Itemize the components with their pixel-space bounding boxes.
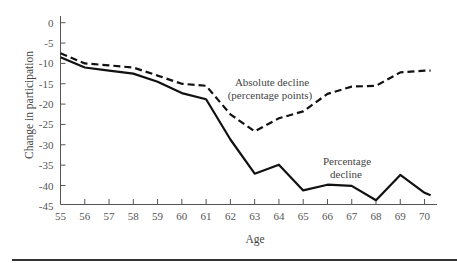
y-tick-label: -20 xyxy=(39,98,54,110)
annotation-absolute-line2: (percentage points) xyxy=(228,89,313,102)
y-tick-label: -5 xyxy=(44,37,54,49)
x-tick-label: 62 xyxy=(225,210,236,222)
x-tick-label: 64 xyxy=(273,210,285,222)
y-tick-label: -35 xyxy=(39,159,54,171)
annotation-percentage-line1: Percentage xyxy=(323,155,371,167)
x-tick-label: 59 xyxy=(152,210,164,222)
y-axis-title: Change in participation xyxy=(23,51,36,159)
y-tick-label: -40 xyxy=(39,180,54,192)
annotation-percentage-line2: decline xyxy=(330,168,362,180)
x-tick-label: 63 xyxy=(249,210,261,222)
bottom-rule xyxy=(12,259,457,261)
x-tick-label: 57 xyxy=(104,210,116,222)
y-tick-label: -10 xyxy=(39,57,54,69)
x-tick-label: 61 xyxy=(201,210,212,222)
x-tick-label: 60 xyxy=(176,210,188,222)
y-tick-label: 0 xyxy=(48,17,54,29)
x-tick-label: 68 xyxy=(371,210,383,222)
x-tick-label: 65 xyxy=(298,210,310,222)
y-tick-label: -45 xyxy=(39,200,54,212)
x-axis-ticks: 55565758596061626364656667686970 xyxy=(55,199,431,222)
annotation-absolute-line1: Absolute decline xyxy=(235,76,309,88)
y-tick-label: -15 xyxy=(39,78,54,90)
x-tick-label: 55 xyxy=(55,210,67,222)
x-tick-label: 70 xyxy=(419,210,431,222)
x-tick-label: 56 xyxy=(79,210,91,222)
x-tick-label: 58 xyxy=(128,210,140,222)
line-chart: 0-5-10-15-20-25-30-35-40-45 555657585960… xyxy=(0,0,457,263)
y-axis-ticks: 0-5-10-15-20-25-30-35-40-45 xyxy=(39,17,66,212)
y-tick-label: -25 xyxy=(39,118,54,130)
x-tick-label: 69 xyxy=(395,210,407,222)
x-tick-label: 66 xyxy=(322,210,334,222)
y-tick-label: -30 xyxy=(39,139,54,151)
x-tick-label: 67 xyxy=(346,210,358,222)
x-axis-title: Age xyxy=(245,233,264,246)
